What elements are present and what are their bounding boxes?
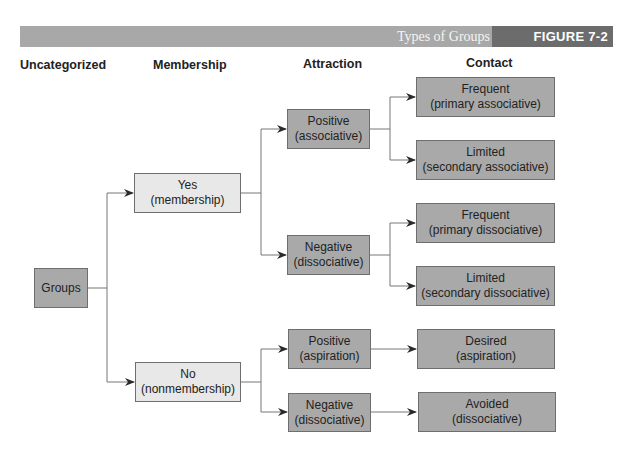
node-positive-associative: Positive (associative) [287,109,370,149]
node-label: Positive [299,334,359,349]
node-sublabel: (dissociative) [294,413,364,428]
node-sublabel: (dissociative) [452,412,522,427]
node-frequent-primary-associative: Frequent (primary associative) [416,77,555,117]
node-sublabel: (secondary dissociative) [421,286,550,301]
node-sublabel: (secondary associative) [422,160,548,175]
node-label: Groups [41,281,80,296]
node-sublabel: (primary dissociative) [429,223,542,238]
node-yes-membership: Yes (membership) [134,173,241,213]
node-label: Yes [150,178,224,193]
node-limited-secondary-dissociative: Limited (secondary dissociative) [416,266,555,306]
node-avoided-dissociative: Avoided (dissociative) [418,392,556,432]
node-label: No [141,367,235,382]
node-label: Negative [294,398,364,413]
node-no-nonmembership: No (nonmembership) [135,362,241,402]
node-sublabel: (dissociative) [293,255,363,270]
node-label: Negative [293,240,363,255]
node-label: Limited [421,271,550,286]
node-positive-aspiration: Positive (aspiration) [288,329,371,369]
node-label: Avoided [452,397,522,412]
node-negative-dissociative: Negative (dissociative) [287,235,370,275]
node-label: Frequent [429,208,542,223]
node-label: Limited [422,145,548,160]
node-sublabel: (aspiration) [299,349,359,364]
node-label: Desired [456,334,516,349]
node-sublabel: (primary associative) [430,97,541,112]
node-sublabel: (nonmembership) [141,382,235,397]
node-sublabel: (membership) [150,193,224,208]
node-frequent-primary-dissociative: Frequent (primary dissociative) [416,203,555,243]
node-limited-secondary-associative: Limited (secondary associative) [416,140,555,180]
node-sublabel: (aspiration) [456,349,516,364]
node-groups: Groups [34,268,88,308]
node-desired-aspiration: Desired (aspiration) [417,329,555,369]
node-negative-dissociative-nonmember: Negative (dissociative) [288,393,371,432]
node-sublabel: (associative) [295,129,362,144]
node-label: Frequent [430,82,541,97]
node-label: Positive [295,114,362,129]
